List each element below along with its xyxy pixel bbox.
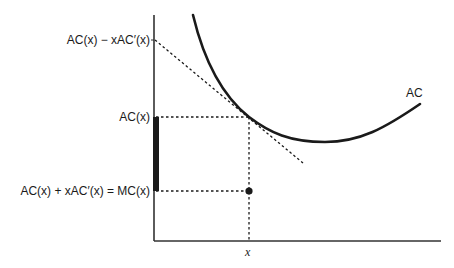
tangent-line xyxy=(155,40,303,163)
ac-curve xyxy=(193,15,420,142)
x-label: x xyxy=(245,246,250,258)
y-label-mc: AC(x) + xAC′(x) = MC(x) xyxy=(20,185,150,197)
y-label-ac-minus: AC(x) − xAC′(x) xyxy=(67,34,150,46)
mc-point xyxy=(245,187,252,194)
y-label-ac: AC(x) xyxy=(119,111,150,123)
ac-curve-label: AC xyxy=(406,87,423,99)
difference-bar xyxy=(153,117,159,191)
